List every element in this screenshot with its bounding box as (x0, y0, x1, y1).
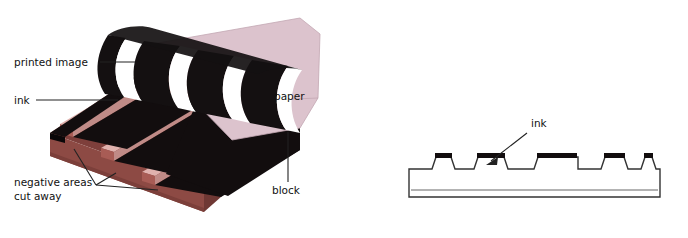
ink-cap-3 (537, 153, 577, 158)
ink-cap-1 (435, 153, 452, 158)
cross-section-ink-caps (435, 153, 653, 158)
ink-cap-5 (644, 153, 653, 158)
label-ink: ink (14, 94, 31, 106)
leader-ink-arrow (491, 133, 527, 161)
label-block: block (272, 184, 301, 196)
ink-cap-4 (604, 153, 625, 158)
illustration-svg: printed image ink negative areas cut awa… (0, 0, 688, 238)
label-paper: paper (274, 90, 305, 102)
label-ink-cross-section: ink (531, 117, 548, 129)
label-negative-areas-line2: cut away (14, 190, 62, 202)
cross-section-profile (409, 157, 660, 197)
label-negative-areas-line1: negative areas (14, 176, 92, 188)
figure-canvas: printed image ink negative areas cut awa… (0, 0, 688, 238)
label-printed-image: printed image (14, 56, 88, 68)
cross-section-panel: ink (409, 117, 660, 197)
